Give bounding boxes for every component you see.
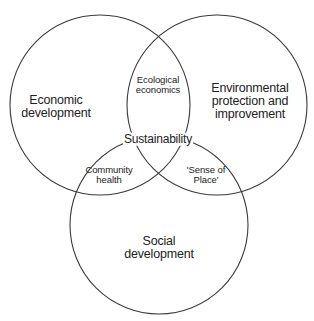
sustainability-label: Sustainability (123, 133, 193, 146)
label-line: improvement (211, 109, 288, 122)
social-development-circle (70, 136, 248, 314)
label-line: development (21, 107, 90, 120)
environmental-protection-label: Environmental protection and improvement (211, 82, 288, 121)
community-health-label: Community health (85, 165, 132, 185)
sense-of-place-label: 'Sense of Place' (187, 165, 225, 185)
economic-development-label: Economic development (21, 94, 90, 120)
ecological-economics-label: Ecological economics (136, 75, 181, 95)
venn-diagram (0, 0, 314, 321)
label-line: economics (136, 85, 181, 95)
label-line: Place' (187, 175, 225, 185)
social-development-label: Social development (124, 235, 193, 261)
label-line: health (85, 175, 132, 185)
label-line: development (124, 248, 193, 261)
